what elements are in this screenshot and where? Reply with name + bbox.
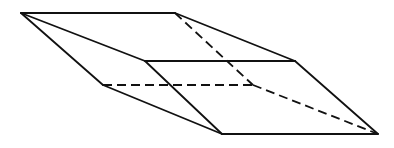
diagram-canvas [0,0,394,148]
edge-BD [175,13,295,61]
edge-EG [103,85,222,134]
edge-AC [21,13,145,61]
edge-FH-hidden [253,85,378,134]
edge-CG [145,61,222,134]
edge-DH [295,61,378,134]
edge-BF-hidden [175,13,253,85]
edge-AE [21,13,103,85]
parallelepiped-diagram [0,0,394,148]
